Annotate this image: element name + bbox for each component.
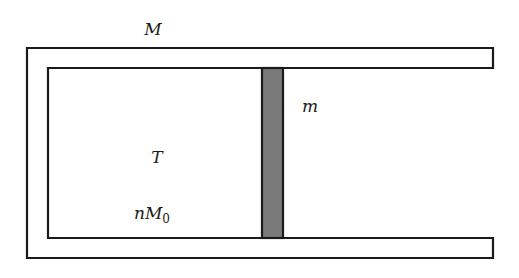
cylinder-piston-diagram: M m T nM0 [0, 0, 519, 278]
gas-amount-subscript: 0 [162, 212, 170, 226]
cylinder-mass-label: M [143, 19, 162, 39]
gas-amount-main: nM [134, 203, 163, 223]
cylinder-wall [27, 48, 493, 258]
piston [262, 68, 283, 238]
piston-mass-label: m [302, 96, 318, 116]
temperature-label: T [151, 147, 164, 167]
gas-amount-label: nM0 [134, 203, 170, 226]
